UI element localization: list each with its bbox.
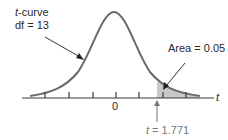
curve-name-rest: -curve (18, 6, 49, 18)
area-label-arrow (163, 63, 185, 90)
df-label: df = 13 (15, 20, 49, 31)
zero-tick-label: 0 (112, 101, 118, 112)
critical-value-label: t = 1.771 (146, 125, 189, 136)
axis-variable-label: t (216, 92, 219, 103)
critical-value-arrow (154, 100, 160, 122)
curve-label-arrow (45, 37, 84, 60)
t-curve (30, 12, 200, 96)
curve-name-label: t-curve (15, 7, 49, 18)
critical-value: = 1.771 (149, 124, 189, 136)
area-label: Area = 0.05 (168, 43, 225, 54)
t-distribution-diagram: t-curve df = 13 Area = 0.05 0 t t = 1.77… (0, 0, 228, 140)
